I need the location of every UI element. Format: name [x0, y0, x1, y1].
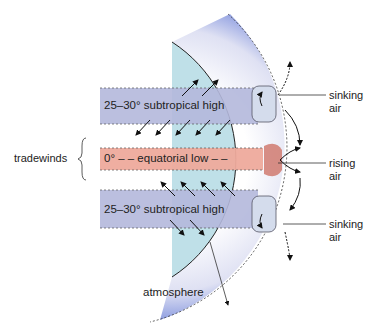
atmosphere-circulation-diagram	[0, 0, 380, 335]
rising-cell	[264, 144, 282, 177]
north-sinking-cell	[252, 86, 276, 122]
rising-air-label: rising air	[329, 157, 355, 183]
tradewinds-brace	[78, 138, 86, 180]
tradewinds-label: tradewinds	[14, 152, 67, 165]
south-sinking-cell	[252, 196, 276, 232]
north-high-label: 25–30° subtropical high	[104, 99, 224, 111]
atmosphere-label: atmosphere	[143, 286, 204, 299]
equatorial-low-label: 0° – – equatorial low – –	[104, 152, 228, 164]
south-high-label: 25–30° subtropical high	[104, 203, 224, 215]
sinking-air-bottom-label: sinking air	[329, 218, 363, 244]
sinking-air-top-label: sinking air	[329, 89, 363, 115]
